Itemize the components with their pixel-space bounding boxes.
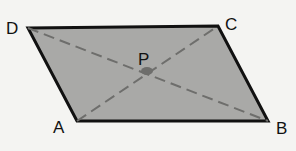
parallelogram-diagram: D C B A P bbox=[0, 0, 296, 151]
intersection-label-p: P bbox=[138, 50, 149, 69]
vertex-label-a: A bbox=[53, 118, 65, 137]
vertex-label-b: B bbox=[276, 119, 287, 138]
vertex-label-c: C bbox=[225, 15, 237, 34]
vertex-label-d: D bbox=[6, 19, 18, 38]
